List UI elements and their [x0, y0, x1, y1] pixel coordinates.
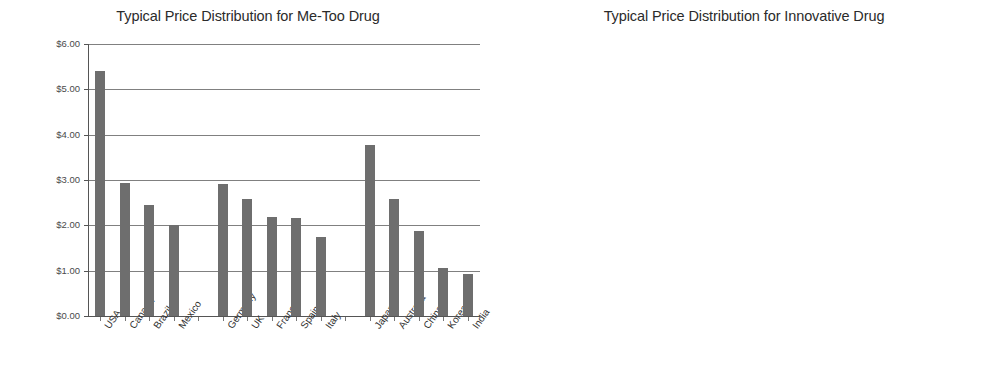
bar — [120, 183, 130, 316]
x-tick-mark — [419, 317, 420, 321]
y-axis-tick-label: $2.00 — [20, 220, 80, 230]
x-tick-mark — [321, 317, 322, 321]
x-tick-mark — [345, 317, 346, 321]
x-tick-mark — [272, 317, 273, 321]
chart-title: Typical Price Distribution for Innovativ… — [496, 8, 992, 24]
two-chart-figure: Typical Price Distribution for Me-Too Dr… — [0, 0, 993, 391]
gridline — [88, 44, 480, 45]
x-axis-tick-label: India — [471, 307, 492, 331]
plot-area-me-too: $0.00$1.00$2.00$3.00$4.00$5.00$6.00USACa… — [88, 44, 480, 316]
gridline — [88, 180, 480, 181]
y-axis-tick-label: $0.00 — [20, 311, 80, 321]
gridline — [88, 89, 480, 90]
x-tick-mark — [468, 317, 469, 321]
x-tick-mark — [174, 317, 175, 321]
bar — [438, 268, 448, 316]
bar — [316, 237, 326, 316]
gridline — [88, 135, 480, 136]
y-axis-tick-label: $6.00 — [20, 39, 80, 49]
x-axis-tick-label: Mexico — [177, 299, 203, 331]
x-tick-mark — [100, 317, 101, 321]
bar — [389, 199, 399, 316]
bar — [144, 205, 154, 316]
bar — [414, 231, 424, 316]
x-tick-mark — [296, 317, 297, 321]
x-tick-mark — [125, 317, 126, 321]
y-axis-tick-label: $5.00 — [20, 84, 80, 94]
y-axis-line — [88, 44, 89, 316]
chart-title: Typical Price Distribution for Me-Too Dr… — [0, 8, 496, 24]
x-tick-mark — [198, 317, 199, 321]
y-axis-tick-label: $3.00 — [20, 175, 80, 185]
bar — [267, 217, 277, 316]
x-tick-mark — [370, 317, 371, 321]
x-tick-mark — [443, 317, 444, 321]
y-axis-tick-label: $4.00 — [20, 130, 80, 140]
bar — [291, 218, 301, 316]
plot-canvas: $0.00$1.00$2.00$3.00$4.00$5.00$6.00USACa… — [88, 44, 480, 316]
bar — [218, 184, 228, 316]
bar — [242, 199, 252, 316]
x-tick-mark — [247, 317, 248, 321]
x-tick-mark — [149, 317, 150, 321]
x-tick-mark — [223, 317, 224, 321]
bar — [463, 274, 473, 316]
bar — [169, 225, 179, 316]
x-tick-mark — [394, 317, 395, 321]
chart-panel-innovative: Typical Price Distribution for Innovativ… — [496, 0, 992, 391]
x-axis-tick-label: Italy — [324, 310, 343, 331]
bar — [95, 71, 105, 316]
bar — [365, 145, 375, 316]
y-axis-tick-label: $1.00 — [20, 266, 80, 276]
chart-panel-me-too: Typical Price Distribution for Me-Too Dr… — [0, 0, 496, 391]
